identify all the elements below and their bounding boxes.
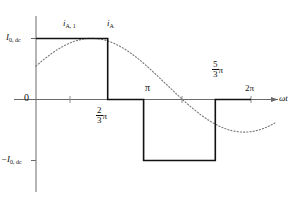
x-axis-arrow [271,97,278,102]
x-axis-label: ωt [279,94,288,103]
y-axis-positive-label: I0, dc [6,33,21,42]
x-tick-label-pi: π [145,83,150,93]
waveform-plot [0,0,296,206]
origin-label: 0 [24,93,29,103]
y-axis-negative-label: −I0, dc [1,155,22,164]
two-thirds-pi-symbol: π [103,111,108,121]
fundamental-current-label: iA, 1 [63,19,76,28]
x-tick-label-two-pi: 2π [245,84,254,93]
y-axis-negative-subscript: 0, dc [10,159,22,165]
five-thirds-pi-symbol: π [219,65,224,75]
x-tick-label-five-thirds-pi: 5 3 π [212,60,223,79]
current-waveform-figure: I0, dc −I0, dc 0 iA, 1 iA 2 3 π π 5 3 π … [0,0,296,206]
x-tick-label-two-thirds-pi: 2 3 π [96,106,107,125]
y-axis-positive-subscript: 0, dc [9,37,21,43]
y-axis-negative-symbol: −I [1,154,10,164]
phase-current-subscript: A [110,23,114,29]
phase-current-label: iA [107,19,114,28]
fundamental-current-curve [36,38,275,132]
fundamental-current-subscript: A, 1 [66,23,76,29]
